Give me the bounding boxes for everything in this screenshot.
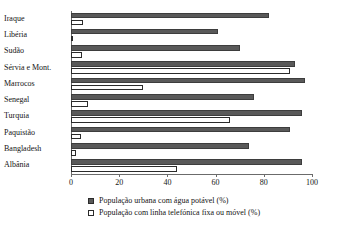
bar-group xyxy=(71,27,312,43)
filled-square-icon xyxy=(88,198,94,204)
bar-water xyxy=(71,127,290,133)
bar-phone xyxy=(71,20,83,26)
x-axis-tick-label: 0 xyxy=(59,178,83,187)
category-label: Libéria xyxy=(4,30,68,39)
bar-water xyxy=(71,29,218,35)
x-axis-tick xyxy=(264,174,265,177)
bar-water xyxy=(71,159,302,165)
category-label: Marrocos xyxy=(4,79,68,88)
bar-water xyxy=(71,110,302,116)
category-label: Turquia xyxy=(4,111,68,120)
category-label-list: IraqueLibériaSudãoSérvia e Mont.Marrocos… xyxy=(4,11,68,174)
bar-water xyxy=(71,78,305,84)
category-label: Albânia xyxy=(4,160,68,169)
x-axis-tick-label: 100 xyxy=(300,178,324,187)
legend-label-water: População urbana com água potável (%) xyxy=(99,196,229,205)
x-axis-tick xyxy=(167,174,168,177)
bar-phone xyxy=(71,52,82,58)
bar-group xyxy=(71,11,312,27)
x-axis-tick xyxy=(216,174,217,177)
category-label: Sudão xyxy=(4,46,68,55)
bar-water xyxy=(71,143,249,149)
plot-area xyxy=(71,11,312,174)
bar-phone xyxy=(71,85,143,91)
bar-phone xyxy=(71,68,290,74)
bar-water xyxy=(71,61,295,67)
bar-group xyxy=(71,44,312,60)
bar-water xyxy=(71,45,240,51)
chart-legend: População urbana com água potável (%) Po… xyxy=(88,195,318,219)
bar-group xyxy=(71,109,312,125)
x-axis-tick xyxy=(119,174,120,177)
bar-group xyxy=(71,125,312,141)
x-axis-tick-label: 80 xyxy=(252,178,276,187)
bar-water xyxy=(71,13,269,19)
bar-chart: IraqueLibériaSudãoSérvia e Mont.Marrocos… xyxy=(0,0,337,235)
x-axis-tick xyxy=(71,174,72,177)
category-label: Bangladesh xyxy=(4,144,68,153)
legend-label-phone: População com linha telefónica fixa ou m… xyxy=(99,208,260,217)
bar-phone xyxy=(71,36,73,42)
bar-group xyxy=(71,60,312,76)
legend-item-phone[interactable]: População com linha telefónica fixa ou m… xyxy=(88,207,318,218)
x-axis-tick-label: 40 xyxy=(155,178,179,187)
x-axis-tick-label: 60 xyxy=(204,178,228,187)
bar-phone xyxy=(71,134,81,140)
bar-group xyxy=(71,141,312,157)
bar-phone xyxy=(71,101,88,107)
category-label: Senegal xyxy=(4,95,68,104)
x-axis-line xyxy=(71,174,312,175)
bar-group xyxy=(71,93,312,109)
legend-item-water[interactable]: População urbana com água potável (%) xyxy=(88,195,318,206)
bar-water xyxy=(71,94,254,100)
bar-phone xyxy=(71,150,76,156)
x-axis-tick-label: 20 xyxy=(107,178,131,187)
bar-group xyxy=(71,76,312,92)
bar-group xyxy=(71,158,312,174)
x-axis-tick xyxy=(312,174,313,177)
bar-phone xyxy=(71,117,230,123)
bar-phone xyxy=(71,166,177,172)
outline-square-icon xyxy=(88,210,94,216)
category-label: Paquistão xyxy=(4,128,68,137)
category-label: Iraque xyxy=(4,14,68,23)
category-label: Sérvia e Mont. xyxy=(4,63,68,72)
